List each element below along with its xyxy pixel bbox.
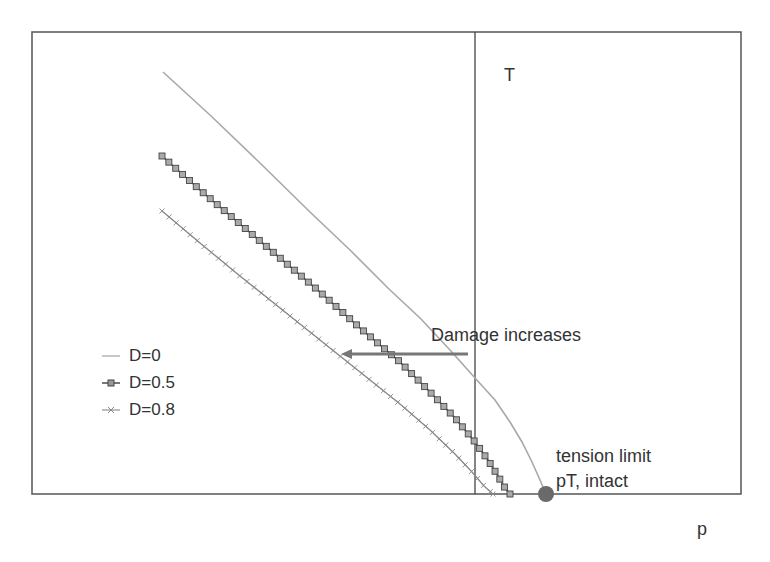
square-marker-icon bbox=[200, 190, 206, 196]
square-marker-icon bbox=[340, 310, 346, 316]
x-marker-icon bbox=[244, 279, 249, 284]
x-marker-icon bbox=[416, 418, 421, 423]
x-marker-icon bbox=[323, 342, 328, 347]
x-marker-icon bbox=[295, 319, 300, 324]
legend-item-d05: D=0.5 bbox=[129, 374, 175, 391]
x-marker-icon bbox=[160, 209, 165, 214]
square-marker-icon bbox=[326, 297, 332, 303]
x-marker-icon bbox=[463, 462, 468, 467]
square-marker-icon bbox=[159, 153, 165, 159]
square-marker-icon bbox=[249, 231, 255, 237]
square-marker-icon bbox=[459, 424, 465, 430]
square-marker-icon bbox=[291, 267, 297, 273]
x-marker-icon bbox=[409, 412, 414, 417]
square-marker-icon bbox=[298, 273, 304, 279]
x-marker-icon bbox=[302, 325, 307, 330]
square-marker-icon bbox=[507, 491, 513, 497]
tension-limit-label: tension limit bbox=[556, 447, 651, 465]
square-marker-icon bbox=[465, 431, 471, 437]
x-marker-icon bbox=[338, 354, 343, 359]
x-marker-icon bbox=[202, 244, 207, 249]
square-marker-icon bbox=[221, 208, 227, 214]
square-marker-icon bbox=[492, 468, 498, 474]
x-marker-icon bbox=[381, 388, 386, 393]
square-marker-icon bbox=[422, 384, 428, 390]
square-marker-icon bbox=[256, 237, 262, 243]
square-marker-icon bbox=[434, 397, 440, 403]
square-marker-icon bbox=[319, 291, 325, 297]
square-marker-icon bbox=[186, 178, 192, 184]
square-marker-icon bbox=[471, 438, 477, 444]
x-marker-icon bbox=[443, 443, 448, 448]
x-marker-icon bbox=[352, 365, 357, 370]
square-marker-icon bbox=[360, 328, 366, 334]
square-marker-icon bbox=[347, 316, 353, 322]
square-marker-icon bbox=[193, 184, 199, 190]
x-marker-icon bbox=[423, 424, 428, 429]
x-marker-icon bbox=[174, 220, 179, 225]
tension-limit-point bbox=[538, 486, 554, 502]
square-marker-icon bbox=[263, 243, 269, 249]
square-marker-icon bbox=[395, 358, 401, 364]
square-marker-icon bbox=[305, 279, 311, 285]
square-marker-icon bbox=[354, 322, 360, 328]
x-marker-icon bbox=[188, 232, 193, 237]
square-marker-icon bbox=[284, 261, 290, 267]
x-marker-icon bbox=[223, 262, 228, 267]
x-marker-icon bbox=[259, 291, 264, 296]
legend-glyphs bbox=[102, 356, 120, 413]
square-marker-icon bbox=[415, 377, 421, 383]
x-marker-icon bbox=[252, 285, 257, 290]
square-marker-icon bbox=[381, 346, 387, 352]
x-marker-icon bbox=[374, 382, 379, 387]
square-marker-icon bbox=[166, 159, 172, 165]
chart-canvas bbox=[0, 0, 770, 562]
x-marker-icon bbox=[388, 394, 393, 399]
square-marker-icon bbox=[487, 460, 493, 466]
x-marker-icon bbox=[450, 449, 455, 454]
square-marker-icon bbox=[482, 453, 488, 459]
square-marker-icon bbox=[441, 403, 447, 409]
square-marker-icon bbox=[409, 371, 415, 377]
square-marker-icon bbox=[270, 249, 276, 255]
legend-item-d0: D=0 bbox=[129, 347, 161, 364]
x-marker-icon bbox=[430, 430, 435, 435]
t-axis-label: T bbox=[504, 66, 515, 84]
x-marker-icon bbox=[475, 476, 480, 481]
x-marker-icon bbox=[230, 267, 235, 272]
square-marker-icon bbox=[402, 364, 408, 370]
x-marker-icon bbox=[216, 256, 221, 261]
x-marker-icon bbox=[345, 359, 350, 364]
legend-item-d08: D=0.8 bbox=[129, 401, 175, 418]
x-marker-icon bbox=[316, 337, 321, 342]
x-marker-icon bbox=[395, 400, 400, 405]
square-marker-icon bbox=[367, 334, 373, 340]
x-marker-icon bbox=[237, 273, 242, 278]
square-marker-icon bbox=[501, 484, 507, 490]
square-marker-icon bbox=[173, 165, 179, 171]
x-marker-icon bbox=[402, 406, 407, 411]
damage-increases-label: Damage increases bbox=[431, 326, 581, 344]
square-marker-icon bbox=[374, 340, 380, 346]
x-marker-icon bbox=[280, 308, 285, 313]
plot-frame bbox=[32, 32, 741, 494]
curve-d0 bbox=[163, 72, 546, 494]
damage-arrow bbox=[341, 349, 468, 359]
p-axis-label: p bbox=[697, 520, 707, 538]
x-marker-icon bbox=[309, 331, 314, 336]
square-marker-icon bbox=[180, 171, 186, 177]
square-marker-icon bbox=[312, 285, 318, 291]
x-marker-icon bbox=[266, 296, 271, 301]
square-marker-icon bbox=[453, 417, 459, 423]
x-marker-icon bbox=[181, 226, 186, 231]
x-marker-icon bbox=[195, 238, 200, 243]
square-marker-icon bbox=[277, 255, 283, 261]
x-marker-icon bbox=[456, 456, 461, 461]
square-marker-icon bbox=[447, 410, 453, 416]
square-marker-icon bbox=[477, 445, 483, 451]
x-marker-icon bbox=[359, 371, 364, 376]
square-marker-icon bbox=[428, 390, 434, 396]
square-marker-icon bbox=[242, 225, 248, 231]
x-marker-icon bbox=[288, 314, 293, 319]
x-marker-icon bbox=[367, 377, 372, 382]
